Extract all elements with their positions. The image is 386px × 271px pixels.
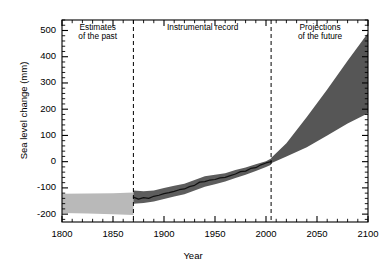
y-tick-label: 0 [22,155,56,166]
chart-bands [62,33,368,215]
x-tick-label: 2100 [346,228,386,239]
y-tick-label: 300 [22,76,56,87]
y-tick-label: -200 [22,208,56,219]
x-axis-title: Year [0,250,386,261]
instrumental-record: Instrumental record [143,23,263,32]
x-tick-label: 1950 [193,228,237,239]
estimates-of-the-past: Estimates of the past [38,23,158,42]
x-tick-label: 1850 [91,228,135,239]
y-tick-label: 400 [22,50,56,61]
x-tick-label: 2000 [244,228,288,239]
y-tick-label: 200 [22,103,56,114]
x-tick-label: 2050 [295,228,339,239]
x-tick-label: 1800 [40,228,84,239]
projection-band [271,33,368,163]
y-tick-label: -100 [22,181,56,192]
past-estimates-band [62,193,133,215]
projections-of-the-future: Projections of the future [260,23,380,42]
x-tick-label: 1900 [142,228,186,239]
y-tick-label: 100 [22,129,56,140]
sea-level-chart: Sea level change (mm) Year -200-10001002… [0,0,386,271]
